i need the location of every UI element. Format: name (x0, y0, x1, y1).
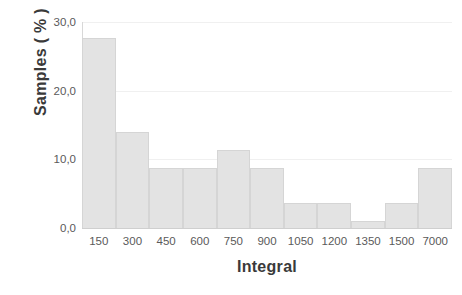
histogram-chart: Samples ( % ) 30,0 20,0 10,0 0,0 150 300 (0, 0, 462, 295)
bar-900 (250, 168, 284, 228)
x-tick-label-750: 750 (217, 233, 251, 251)
x-tick-label-1200: 1200 (317, 233, 351, 251)
plot-area (82, 22, 452, 228)
x-tick-label-150: 150 (82, 233, 116, 251)
bar-750 (217, 150, 251, 228)
x-axis-tick-labels: 150 300 450 600 750 900 1050 1200 1350 1… (82, 233, 452, 251)
x-tick-label-450: 450 (149, 233, 183, 251)
x-tick-label-900: 900 (250, 233, 284, 251)
x-axis-title: Integral (82, 258, 452, 276)
bar-7000 (418, 168, 452, 228)
x-tick-label-300: 300 (116, 233, 150, 251)
x-tick-label-1500: 1500 (385, 233, 419, 251)
y-tick-label-30: 30,0 (32, 16, 76, 28)
x-tick-label-600: 600 (183, 233, 217, 251)
bar-1500 (385, 203, 419, 228)
bar-series (82, 22, 452, 228)
y-tick-label-0: 0,0 (32, 222, 76, 234)
bar-600 (183, 168, 217, 228)
x-tick-label-1350: 1350 (351, 233, 385, 251)
bar-300 (116, 132, 150, 228)
x-tick-label-1050: 1050 (284, 233, 318, 251)
bar-1050 (284, 203, 318, 228)
y-tick-label-20: 20,0 (32, 85, 76, 97)
y-tick-label-10: 10,0 (32, 153, 76, 165)
bar-450 (149, 168, 183, 228)
bar-150 (82, 38, 116, 228)
bar-1200 (317, 203, 351, 228)
x-tick-label-7000: 7000 (418, 233, 452, 251)
y-axis-tick-labels: 30,0 20,0 10,0 0,0 (22, 0, 76, 295)
bar-1350 (351, 221, 385, 228)
